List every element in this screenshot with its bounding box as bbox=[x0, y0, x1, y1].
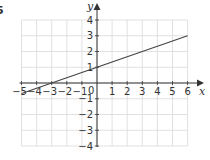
y-tick-label: −3 bbox=[78, 125, 93, 136]
y-tick-label: 2 bbox=[87, 46, 93, 57]
y-axis-arrow-icon bbox=[94, 3, 101, 10]
series-line bbox=[22, 36, 188, 94]
x-tick-label: 1 bbox=[109, 86, 115, 97]
y-tick-label: −4 bbox=[78, 141, 93, 152]
x-tick-label: 3 bbox=[139, 86, 145, 97]
origin-label: 0 bbox=[88, 85, 94, 96]
x-axis-label: x bbox=[199, 85, 206, 98]
x-tick-label: −2 bbox=[57, 86, 72, 97]
x-tick-label: −5 bbox=[12, 86, 27, 97]
x-tick-label: 5 bbox=[169, 86, 175, 97]
x-tick-label: 4 bbox=[154, 86, 160, 97]
x-tick-label: −3 bbox=[42, 86, 57, 97]
data-series bbox=[22, 36, 188, 94]
x-tick-label: 6 bbox=[184, 86, 190, 97]
x-tick-label: 2 bbox=[124, 86, 130, 97]
y-tick-label: 3 bbox=[87, 30, 93, 41]
y-axis-label: y bbox=[86, 0, 94, 13]
line-chart: −5−4−3−2−1123456−4−3−2−11234 x y 0 bbox=[0, 0, 210, 160]
y-tick-label: 4 bbox=[87, 15, 93, 26]
y-tick-label: −2 bbox=[78, 109, 93, 120]
